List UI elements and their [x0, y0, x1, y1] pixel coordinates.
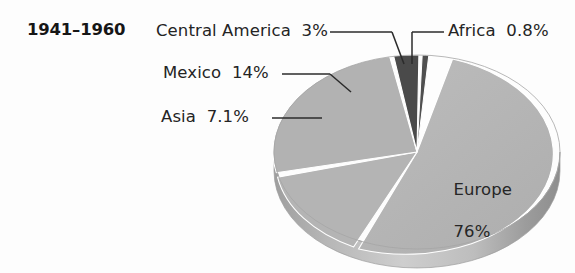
- label-asia: Asia 7.1%: [161, 107, 249, 126]
- label-mexico: Mexico 14%: [163, 63, 269, 82]
- label-central-america: Central America 3%: [156, 21, 328, 40]
- label-africa: Africa 0.8%: [448, 21, 549, 40]
- chart-canvas: 1941–1960 Central America 3% Africa 0.8%…: [0, 0, 575, 273]
- period-title: 1941–1960: [27, 20, 125, 39]
- label-europe-name: Europe: [453, 180, 512, 199]
- label-europe-value: 76%: [432, 221, 512, 242]
- label-europe: Europe 76%: [432, 158, 512, 273]
